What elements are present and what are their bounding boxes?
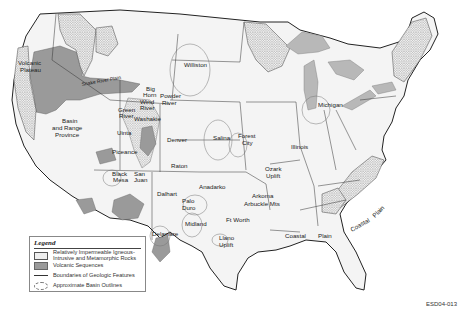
label-salina: Salina <box>213 134 231 141</box>
legend-label: Boundaries of Geologic Features <box>53 273 135 279</box>
legend-label: Volcanic Sequences <box>53 263 103 269</box>
label-volcanic-plateau-2: Plateau <box>20 66 42 73</box>
legend-item-igneous: Relatively Impermeable Igneous-Intrusive… <box>34 251 141 260</box>
label-ozark-uplift-1: Ozark <box>265 165 282 172</box>
label-uinta: Uinta <box>117 129 132 136</box>
label-green-river-2: River <box>119 112 133 119</box>
legend-box: Legend Relatively Impermeable Igneous-In… <box>29 236 146 292</box>
legend-item-basins: Approximate Basin Outlines <box>34 281 141 290</box>
image-code: ESD04-013 <box>426 301 457 307</box>
label-black-mesa-2: Mesa <box>113 176 129 183</box>
label-arkoma: Arkoma <box>252 192 274 199</box>
label-volcanic-plateau-1: Volcanic <box>18 59 41 66</box>
label-forest-city-2: City <box>242 139 254 146</box>
label-ozark-uplift-2: Uplift <box>266 172 280 179</box>
label-palo-duro-2: Duro <box>182 204 196 211</box>
legend-item-boundaries: Boundaries of Geologic Features <box>34 271 141 280</box>
legend-item-volcanic: Volcanic Sequences <box>34 261 141 270</box>
label-wind-river-2: River <box>140 104 154 111</box>
label-big-horn-2: Horn <box>143 91 157 98</box>
label-coastal-east: Coastal <box>349 216 371 233</box>
label-washakie: Washakie <box>134 115 161 122</box>
label-illinois: Illinois <box>291 143 308 150</box>
label-palo-duro-1: Palo <box>182 197 195 204</box>
label-denver: Denver <box>167 136 187 143</box>
label-plain-east: Plain <box>371 204 386 219</box>
legend-label: Relatively Impermeable Igneous-Intrusive… <box>53 250 141 261</box>
label-llano-uplift-1: Llano <box>219 234 235 241</box>
label-coastal-west: Coastal <box>285 232 306 239</box>
legend-title: Legend <box>34 239 141 249</box>
label-midland: Midland <box>185 220 207 227</box>
label-plain-west: Plain <box>318 232 332 239</box>
label-dalhart: Dalhart <box>157 190 177 197</box>
solid-line-swatch-icon <box>34 275 48 276</box>
label-powder-river-1: Powder <box>160 92 181 99</box>
label-arbuckle-mts: Arbuckle Mts <box>244 200 280 207</box>
label-powder-river-2: River <box>162 99 176 106</box>
label-ft-worth: Ft Worth <box>226 216 250 223</box>
label-forest-city-1: Forest <box>238 132 256 139</box>
label-basin-range-3: Province <box>55 131 80 138</box>
label-piceance: Piceance <box>112 148 138 155</box>
label-basin-range-1: Basin <box>62 117 78 124</box>
dashed-oval-swatch-icon <box>34 282 48 290</box>
label-basin-range-2: and Range <box>52 124 83 131</box>
label-delaware: Delaware <box>152 230 179 237</box>
label-llano-uplift-2: Uplift <box>219 241 233 248</box>
label-raton: Raton <box>171 162 188 169</box>
label-san-juan-2: Juan <box>134 176 148 183</box>
legend-label: Approximate Basin Outlines <box>53 283 122 289</box>
gray-fill-swatch-icon <box>34 262 48 270</box>
label-anadarko: Anadarko <box>199 183 226 190</box>
label-williston: Williston <box>184 61 208 68</box>
label-michigan: Michigan <box>318 101 343 108</box>
dotted-pattern-swatch-icon <box>34 252 48 260</box>
